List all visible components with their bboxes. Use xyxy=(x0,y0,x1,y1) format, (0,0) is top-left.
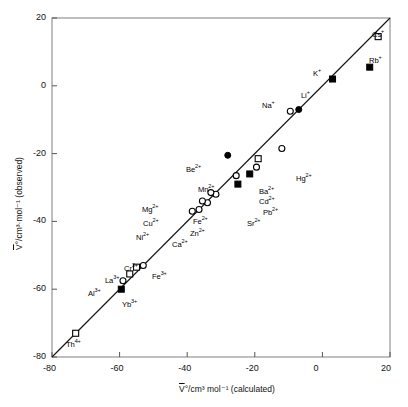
data-point-cu xyxy=(199,198,205,204)
data-point-cr xyxy=(134,264,140,270)
data-point-ca xyxy=(196,207,202,213)
data-point-yb xyxy=(118,286,124,292)
data-point-cd xyxy=(253,164,259,170)
data-point-ni xyxy=(189,208,195,214)
y-axis-title: V°/cm³·mol⁻¹ (observed) xyxy=(14,157,24,250)
data-point-al xyxy=(120,278,126,284)
data-point-be xyxy=(225,152,231,158)
data-point-th xyxy=(73,330,79,336)
data-point-sr xyxy=(235,181,241,187)
data-point-mg xyxy=(208,190,214,196)
data-point-na xyxy=(287,108,293,114)
data-point-fe xyxy=(140,262,146,268)
data-point-li xyxy=(296,107,302,113)
data-point-mn xyxy=(233,173,239,179)
data-point-hg xyxy=(279,146,285,152)
data-point-rb xyxy=(367,64,373,70)
one-to-one-reference-line xyxy=(52,18,390,357)
data-point-cs xyxy=(375,34,381,40)
data-point-la xyxy=(127,271,133,277)
plot-canvas xyxy=(0,0,408,407)
data-point-pb xyxy=(247,171,253,177)
scatter-plot-figure: Cs+Rb+K+Li+Na+Hg2+Ba2+Cd2+Be2+Pb2+Mn2+Sr… xyxy=(0,0,408,407)
x-axis-title: V°/cm³ mol⁻¹ (calculated) xyxy=(179,384,275,394)
data-point-k xyxy=(330,76,336,82)
data-point-ba xyxy=(255,156,261,162)
